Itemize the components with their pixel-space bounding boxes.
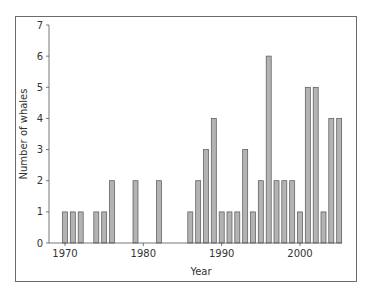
bar-1970	[63, 212, 68, 243]
bar-1982	[157, 181, 162, 243]
bar-2002	[313, 87, 318, 243]
y-axis-title: Number of whales	[18, 89, 29, 180]
bar-1987	[196, 181, 201, 243]
bar-1975	[102, 212, 107, 243]
bar-2005	[337, 118, 342, 243]
x-tick-label-2000: 2000	[287, 248, 312, 259]
bar-1992	[235, 212, 240, 243]
bar-1995	[258, 181, 263, 243]
x-axis-title: Year	[189, 266, 212, 277]
bar-1972	[78, 212, 83, 243]
x-tick-label-1970: 1970	[52, 248, 77, 259]
bar-1996	[266, 56, 271, 243]
bar-1991	[227, 212, 232, 243]
y-tick-label-0: 0	[37, 238, 43, 249]
y-tick-label-7: 7	[37, 20, 43, 31]
bar-2004	[329, 118, 334, 243]
bar-1986	[188, 212, 193, 243]
bars-group	[63, 56, 342, 243]
bar-1999	[290, 181, 295, 243]
bar-2003	[321, 212, 326, 243]
bar-1993	[243, 150, 248, 243]
y-tick-label-4: 4	[37, 113, 43, 124]
y-tick-label-5: 5	[37, 82, 43, 93]
bar-1988	[204, 150, 209, 243]
bar-chart: 012345671970198019902000 Number of whale…	[0, 0, 372, 295]
y-tick-label-1: 1	[37, 206, 43, 217]
bar-1976	[110, 181, 115, 243]
y-tick-label-6: 6	[37, 51, 43, 62]
y-tick-label-2: 2	[37, 175, 43, 186]
y-tick-label-3: 3	[37, 144, 43, 155]
bar-2000	[298, 212, 303, 243]
bar-1974	[94, 212, 99, 243]
bar-1990	[219, 212, 224, 243]
bar-1998	[282, 181, 287, 243]
bar-1997	[274, 181, 279, 243]
bar-2001	[305, 87, 310, 243]
x-tick-label-1980: 1980	[131, 248, 156, 259]
bar-1971	[70, 212, 75, 243]
x-tick-label-1990: 1990	[209, 248, 234, 259]
bar-1989	[211, 118, 216, 243]
bar-1994	[251, 212, 256, 243]
bar-1979	[133, 181, 138, 243]
